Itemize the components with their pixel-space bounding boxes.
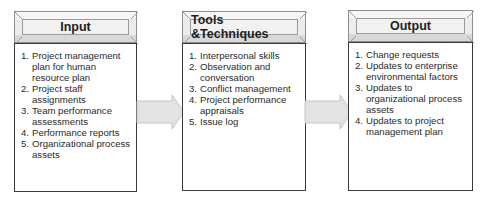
input-title: Input [22,19,129,35]
tools-techniques-block: Tools &Techniques 1.Interpersonal skills… [182,11,306,191]
arrow-right-icon [304,94,354,130]
tools-techniques-title: Tools &Techniques [190,19,298,35]
input-header: Input [14,11,137,43]
list-item: 4.Updates to project management plan [355,115,468,137]
input-list-box: 1.Project management plan for human reso… [14,43,137,192]
list-item: 1.Interpersonal skills [189,50,301,61]
tools-techniques-header: Tools &Techniques [182,11,306,43]
output-list-box: 1.Change requests 2.Updates to enterpris… [348,42,473,191]
list-item: 1.Project management plan for human reso… [21,50,132,83]
output-title: Output [356,18,465,34]
list-item: 3.Conflict management [189,83,301,94]
tools-techniques-list-box: 1.Interpersonal skills 2.Observation and… [182,43,306,191]
list-item: 5.Issue log [189,116,301,127]
list-item: 4.Project performance appraisals [189,94,301,116]
list-item: 2.Updates to enterprise environmental fa… [355,60,468,82]
list-item: 2.Observation and conversation [189,61,301,83]
list-item: 2.Project staff assignments [21,83,132,105]
output-header: Output [348,10,473,42]
list-item: 1.Change requests [355,49,468,60]
arrow-right-icon [136,94,186,130]
list-item: 5.Organizational process assets [21,138,132,160]
list-item: 4.Performance reports [21,127,132,138]
input-block: Input 1.Project management plan for huma… [14,11,137,192]
output-block: Output 1.Change requests 2.Updates to en… [348,10,473,191]
list-item: 3.Team performance assessments [21,105,132,127]
list-item: 3.Updates to organizational process asse… [355,82,468,115]
